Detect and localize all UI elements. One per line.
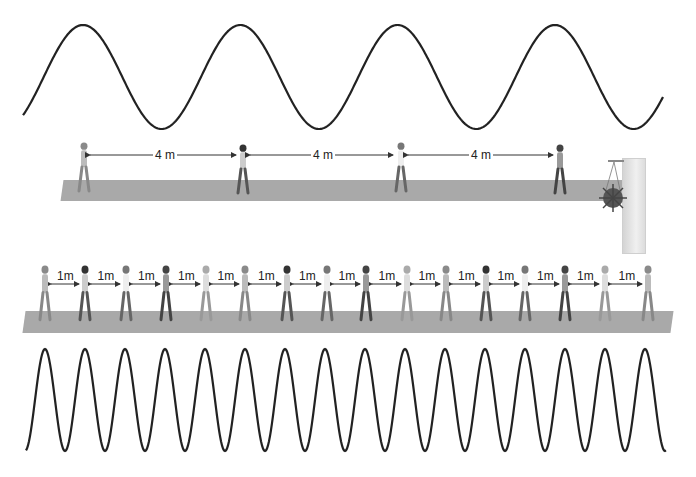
- walker-figure: [158, 265, 174, 323]
- spacing-label-bottom: 1m: [419, 270, 436, 282]
- spacing-label-top-2: 4 m: [311, 149, 335, 161]
- walker-figure: [279, 265, 295, 323]
- bottom-wave: [0, 340, 696, 477]
- walker-figure: [77, 265, 93, 323]
- spacing-label-bottom: 1m: [577, 270, 594, 282]
- walker-figure: [237, 265, 253, 323]
- walker-figure: [557, 265, 573, 323]
- spacing-label-bottom: 1m: [458, 270, 475, 282]
- walker-figure: [118, 265, 134, 323]
- spacing-label-bottom: 1m: [98, 270, 115, 282]
- spacing-label-bottom: 1m: [619, 270, 636, 282]
- walker-figure: [517, 265, 533, 323]
- walker-figure: [640, 265, 656, 323]
- spacing-label-top-1: 4 m: [153, 149, 177, 161]
- walker-figure: [399, 265, 415, 323]
- spacing-label-bottom: 1m: [379, 270, 396, 282]
- spacing-label-bottom: 1m: [537, 270, 554, 282]
- spacing-label-bottom: 1m: [339, 270, 356, 282]
- walker-figure: [37, 265, 53, 323]
- diagram: 4 m 4 m 4 m: [0, 0, 696, 477]
- spacing-label-bottom: 1m: [178, 270, 195, 282]
- spacing-label-bottom: 1m: [258, 270, 275, 282]
- spacing-label-bottom: 1m: [498, 270, 515, 282]
- walker-figure: [438, 265, 454, 323]
- walker-figure: [319, 265, 335, 323]
- spacing-label-top-3: 4 m: [469, 149, 493, 161]
- spacing-label-bottom: 1m: [218, 270, 235, 282]
- spacing-label-bottom: 1m: [57, 270, 74, 282]
- walker-figure: [478, 265, 494, 323]
- spacing-label-bottom: 1m: [299, 270, 316, 282]
- walker-figure: [597, 265, 613, 323]
- spacing-label-bottom: 1m: [138, 270, 155, 282]
- walker-figure: [358, 265, 374, 323]
- walker-figure: [198, 265, 214, 323]
